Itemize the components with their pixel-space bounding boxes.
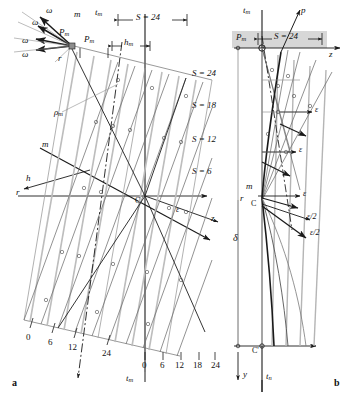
m-label-b: m: [246, 182, 253, 191]
panel-b-id: b: [334, 378, 340, 388]
horizontal-scale-6: 6: [160, 361, 165, 370]
epsilon-half-arrows-b: [262, 204, 310, 238]
oblique-scale-6: 6: [48, 338, 53, 347]
curve-label-S24: S = 24: [192, 69, 216, 78]
pitch-Pm-label-b: Pm: [236, 33, 246, 43]
axis-tm-label-b: tm: [243, 6, 250, 16]
epsilon-label-a: ε: [176, 206, 179, 214]
r-label-b: r: [240, 194, 244, 203]
panel-a-group: [14, 12, 218, 382]
dimension-S24-label-a: S = 24: [136, 13, 160, 22]
node-markers-b: [266, 68, 311, 153]
center-Cprime-label-b: C': [252, 347, 259, 355]
m-axis-label-a: m: [42, 140, 49, 149]
axis-h-a: [24, 170, 90, 189]
oblique-scale-24: 24: [102, 349, 111, 358]
m-vector-label-a: m: [74, 10, 81, 19]
oblique-scale-0: 0: [26, 333, 31, 342]
epsilon-label-b-1: ε: [315, 106, 318, 114]
horizontal-scale-24: 24: [211, 361, 220, 370]
apex-Pm-label-a: Pm: [59, 28, 69, 38]
delta-label-b: δ: [233, 233, 238, 243]
center-C-label-b: C: [251, 200, 256, 208]
horizontal-scale-12: 12: [175, 361, 184, 370]
r-radius-label-a: r: [58, 54, 62, 63]
curve-label-S18: S = 18: [192, 101, 216, 110]
omega-label-2: ω: [32, 18, 38, 27]
axis-y-label-b: y: [243, 370, 247, 379]
axis-z-label-b: z: [329, 50, 333, 59]
ray-family-a: [24, 62, 212, 356]
height-hm-label-a: hm: [124, 38, 133, 48]
epsilon-label-b-2: ε: [299, 146, 302, 154]
omega-label-3: ω: [22, 36, 28, 45]
figure-container: ω ω ω ω m r Pm tm S = 24 Pm hm S = 24 S …: [0, 0, 348, 398]
horizontal-scale-0: 0: [142, 361, 147, 370]
oblique-scale-12: 12: [68, 343, 77, 352]
axis-tm-bottom-label-a: tm: [126, 374, 133, 384]
dimension-S24-label-b: S = 24: [274, 32, 298, 41]
omega-label-4: ω: [22, 50, 28, 59]
h-axis-label-a: h: [26, 174, 31, 183]
grid-vertical-thin-a: [24, 45, 212, 354]
axis-tn-label-b: tn: [266, 372, 272, 382]
epsilon-half-label-b-2: ε/2: [310, 229, 319, 237]
epsilon-half-label-b-1: ε/2: [307, 213, 316, 221]
axis-p-label-b: p: [301, 6, 306, 15]
z-axis-label-a: z: [211, 214, 215, 223]
horizontal-scale-18: 18: [193, 361, 202, 370]
rho-m-label-a: ρm: [54, 108, 63, 118]
axis-tm-label-a: tm: [95, 8, 102, 18]
curve-label-S6: S = 6: [192, 167, 212, 176]
grid-vertical-a: [30, 52, 196, 350]
panel-b-group: [232, 10, 340, 392]
apex-point-Pm-a: [69, 43, 75, 49]
pitch-Pm-label-a: Pm: [84, 35, 94, 45]
omega-label-1: ω: [46, 6, 52, 15]
center-C-label-a: C: [135, 197, 140, 205]
curve-label-S12: S = 12: [192, 135, 216, 144]
epsilon-label-b-3: ε: [303, 190, 306, 198]
panel-a-id: a: [12, 378, 17, 388]
r-axis-label-a: r: [16, 188, 20, 197]
